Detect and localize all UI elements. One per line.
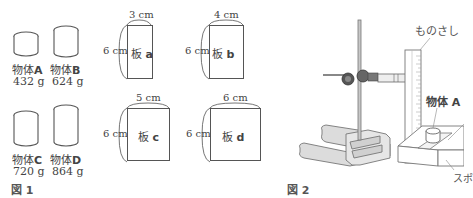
ruler-label: ものさし: [415, 22, 459, 38]
object-a-cylinder: [426, 128, 440, 143]
board-a-height: 6 cm: [103, 45, 128, 56]
object-d-mass: 864 g: [52, 165, 84, 178]
board-a-width: 3 cm: [129, 9, 154, 20]
figure2-caption: 図 2: [287, 181, 309, 197]
board-d-label: 板 d: [222, 128, 244, 144]
cylinder-d-icon: [51, 104, 81, 148]
stand-base: [300, 125, 391, 166]
object-c-mass: 720 g: [13, 165, 45, 178]
object-a-callout-label: 物体 A: [426, 93, 460, 109]
cylinder-c-icon: [11, 110, 41, 148]
sponge-label: スポ: [453, 170, 473, 185]
board-b-width: 4 cm: [214, 9, 239, 20]
board-a-label: 板 a: [131, 45, 153, 61]
board-d-height: 6 cm: [186, 128, 211, 139]
object-a-mass: 432 g: [13, 75, 45, 88]
cylinder-a-icon: [11, 31, 41, 59]
board-c-label: 板 c: [138, 128, 159, 144]
cylinder-b-icon: [51, 25, 81, 59]
board-c-width: 5 cm: [136, 92, 161, 103]
figure1-caption: 図 1: [11, 181, 33, 197]
object-b-mass: 624 g: [52, 75, 84, 88]
board-b-label: 板 b: [212, 45, 234, 61]
board-d-width: 6 cm: [223, 92, 248, 103]
board-c-height: 6 cm: [103, 128, 128, 139]
board-b-height: 6 cm: [185, 45, 210, 56]
